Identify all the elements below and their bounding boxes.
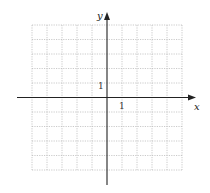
x-axis-label: x bbox=[194, 101, 200, 112]
x-tick-label: 1 bbox=[119, 101, 125, 111]
y-axis-label: y bbox=[96, 10, 103, 21]
x-axis-arrow-icon bbox=[188, 95, 196, 101]
y-tick-label: 1 bbox=[98, 81, 104, 91]
coordinate-plane: y x 1 1 bbox=[0, 0, 210, 193]
y-axis-arrow-icon bbox=[104, 12, 110, 20]
y-axis bbox=[104, 12, 110, 185]
